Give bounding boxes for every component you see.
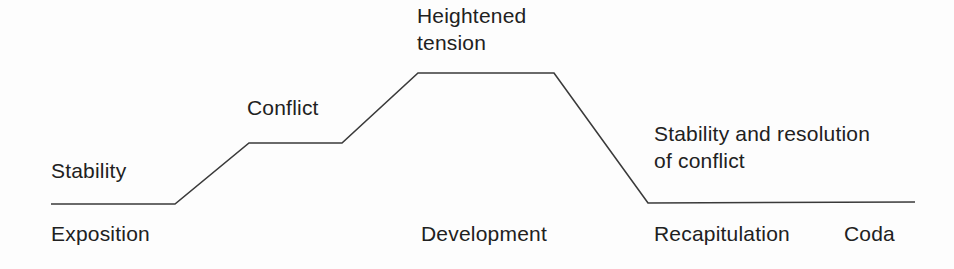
section-label-recapitulation: Recapitulation: [654, 220, 790, 247]
label-stability: Stability: [51, 157, 126, 184]
label-heightened-tension: Heightened tension: [417, 2, 526, 56]
label-conflict: Conflict: [247, 94, 319, 121]
section-label-exposition: Exposition: [51, 220, 150, 247]
section-label-coda: Coda: [844, 220, 895, 247]
section-label-development: Development: [421, 220, 547, 247]
sonata-form-diagram: Stability Conflict Heightened tension St…: [0, 0, 954, 269]
label-stability-and-resolution: Stability and resolution of conflict: [654, 120, 870, 174]
